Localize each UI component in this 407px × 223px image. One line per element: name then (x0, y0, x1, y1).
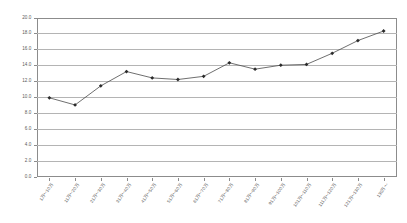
data-point-marker (279, 63, 283, 67)
line-chart: 20.018.016.014.012.010.08.06.04.02.00.0 … (0, 0, 407, 223)
data-series-layer (0, 0, 407, 223)
data-point-marker (382, 29, 386, 33)
data-point-marker (227, 61, 231, 65)
data-point-marker (47, 96, 51, 100)
data-point-marker (125, 70, 129, 74)
data-point-marker (202, 74, 206, 78)
data-point-marker (150, 76, 154, 80)
data-point-marker (356, 39, 360, 43)
series-line (49, 31, 383, 105)
data-point-marker (305, 63, 309, 67)
data-point-marker (176, 78, 180, 82)
data-point-marker (330, 51, 334, 55)
data-point-marker (253, 67, 257, 71)
